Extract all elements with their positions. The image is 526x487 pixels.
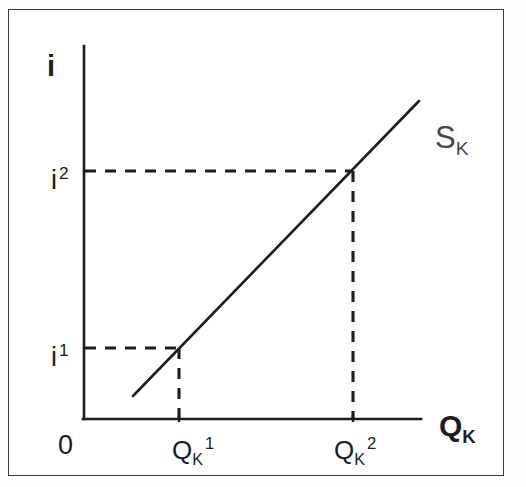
y-tick-label-i1: i1	[51, 342, 69, 371]
figure-root: i i2 i1 0 QK1 QK2 QK SK	[0, 0, 526, 487]
chart-canvas	[9, 10, 502, 474]
x-tick-qk2-subscript: K	[354, 450, 365, 468]
x-tick-qk2-base: Q	[334, 435, 354, 465]
x-tick-label-qk2: QK2	[334, 436, 376, 467]
figure-frame: i i2 i1 0 QK1 QK2 QK SK	[8, 9, 504, 476]
y-axis-label: i	[47, 52, 55, 81]
x-axis-label-base: Q	[439, 409, 462, 442]
origin-label: 0	[58, 432, 73, 459]
x-axis-label-subscript: K	[462, 426, 475, 447]
supply-curve-sk	[133, 101, 419, 396]
x-tick-qk2-superscript: 2	[365, 434, 376, 453]
x-tick-label-qk1: QK1	[172, 436, 214, 467]
y-tick-i1-superscript: 1	[57, 340, 69, 360]
x-axis-label: QK	[439, 411, 476, 447]
y-tick-label-i2: i2	[51, 165, 69, 194]
x-tick-qk1-subscript: K	[192, 450, 203, 468]
x-tick-qk1-base: Q	[172, 435, 192, 465]
curve-label-subscript: K	[456, 138, 469, 159]
x-tick-qk1-superscript: 1	[203, 434, 214, 453]
curve-label-base: S	[435, 120, 456, 155]
curve-label-sk: SK	[435, 122, 469, 158]
y-tick-i2-superscript: 2	[57, 163, 69, 183]
